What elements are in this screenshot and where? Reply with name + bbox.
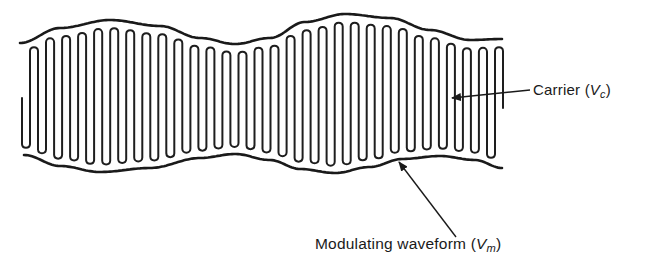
modulating-pointer-arrow [399,162,456,237]
modulating-envelope-bottom [24,154,502,173]
carrier-label-text: Carrier [533,81,580,98]
modulating-symbol: V [476,235,487,252]
modulating-subscript: m [487,242,497,254]
carrier-label-close-paren: ) [606,81,611,98]
carrier-symbol: V [590,81,600,98]
carrier-label: Carrier (Vc) [533,81,611,100]
modulating-label-text: Modulating waveform [315,235,466,252]
modulating-envelope-top [20,14,502,44]
modulating-label-close-paren: ) [496,235,501,252]
carrier-wave [22,23,503,166]
modulating-waveform-label: Modulating waveform (Vm) [315,235,501,254]
